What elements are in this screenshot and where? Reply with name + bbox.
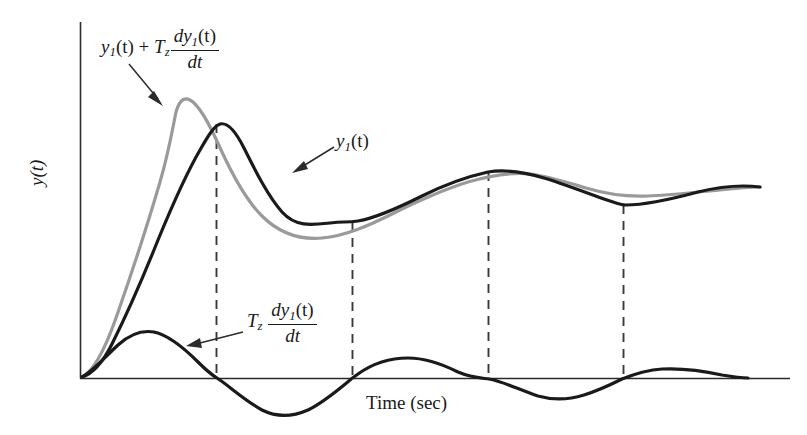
annotation-sum-label: y1(t) + Tzdy1(t)dt <box>101 26 220 71</box>
y-axis-label: y(t) <box>27 160 46 186</box>
sum-fraction-numerator: dy1(t) <box>171 26 219 51</box>
sum-num-argument: (t) <box>198 25 216 46</box>
y1-argument: (t) <box>351 130 369 151</box>
curve-sum <box>82 99 760 377</box>
arrowhead-y1 <box>292 161 308 173</box>
leader-line-deriv <box>196 332 243 344</box>
deriv-num-d: d <box>271 299 281 320</box>
sum-y-argument: (t) + <box>116 36 154 57</box>
deriv-num-argument: (t) <box>296 299 314 320</box>
sum-tz-symbol: T <box>154 36 165 57</box>
deriv-tz-symbol: T <box>247 310 258 331</box>
sum-num-d: d <box>174 25 184 46</box>
arrowhead-sum <box>148 91 163 106</box>
sum-fraction-denominator: dt <box>171 51 219 71</box>
arrowhead-deriv <box>186 338 202 348</box>
deriv-fraction-denominator: dt <box>268 325 316 345</box>
curve-y1 <box>82 124 760 377</box>
annotation-y1-label: y1(t) <box>336 131 369 154</box>
sum-num-y: y <box>183 25 191 46</box>
deriv-fraction-numerator: dy1(t) <box>268 300 316 325</box>
x-axis-label: Time (sec) <box>366 393 447 412</box>
sum-fraction: dy1(t)dt <box>171 26 219 71</box>
sum-tz-subscript: z <box>165 44 170 59</box>
deriv-fraction: dy1(t)dt <box>268 300 316 345</box>
figure-canvas: y1(t) + Tzdy1(t)dt y1(t) Tz dy1(t)dt Tim… <box>0 0 807 435</box>
annotation-derivative-label: Tz dy1(t)dt <box>247 300 318 345</box>
deriv-tz-subscript: z <box>258 318 263 333</box>
